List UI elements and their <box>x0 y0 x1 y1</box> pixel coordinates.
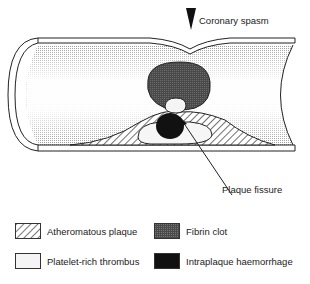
legend-item-atheromatous-plaque: Atheromatous plaque <box>15 223 137 239</box>
light-swatch-icon <box>15 253 41 269</box>
legend-label: Intraplaque haemorrhage <box>186 256 293 267</box>
legend-item-fibrin-clot: Fibrin clot <box>154 223 227 239</box>
legend-label: Platelet-rich thrombus <box>47 256 139 267</box>
black-swatch-icon <box>154 253 180 269</box>
legend-label: Atheromatous plaque <box>47 226 137 237</box>
spasm-arrow-icon <box>186 8 196 30</box>
legend-label: Fibrin clot <box>186 226 227 237</box>
legend-item-platelet-thrombus: Platelet-rich thrombus <box>15 253 139 269</box>
coronary-spasm-label: Coronary spasm <box>199 15 269 26</box>
intraplaque-haemorrhage <box>156 113 184 139</box>
coronary-artery-diagram <box>0 0 310 200</box>
stippled-swatch-icon <box>154 223 180 239</box>
vessel-bottom-wall <box>38 145 295 151</box>
plaque-fissure-label: Plaque fissure <box>222 184 282 195</box>
legend-item-intraplaque-haemorrhage: Intraplaque haemorrhage <box>154 253 293 269</box>
hatched-swatch-icon <box>15 223 41 239</box>
platelet-thrombus <box>165 98 186 113</box>
